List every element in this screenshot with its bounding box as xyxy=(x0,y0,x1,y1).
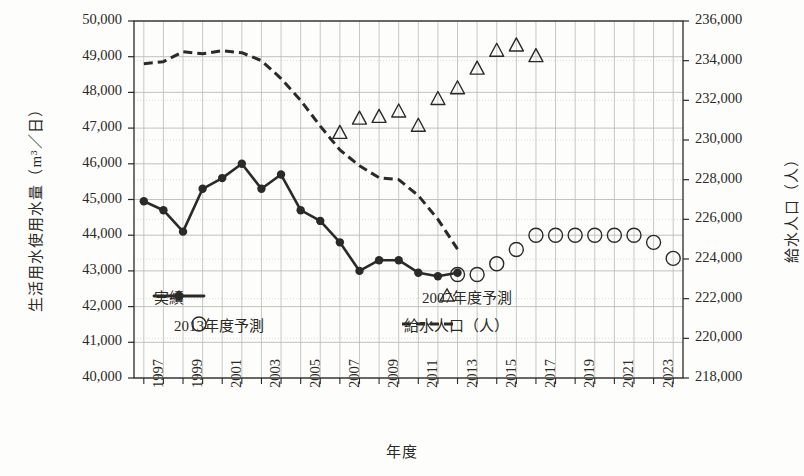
legend-marker-open-circle xyxy=(170,314,228,334)
data-point xyxy=(159,206,167,214)
plot-area xyxy=(0,0,804,476)
legend-item: 2013年度予測 xyxy=(170,314,264,335)
data-point xyxy=(336,238,344,246)
data-point xyxy=(453,268,461,276)
data-point xyxy=(257,185,265,193)
data-point xyxy=(179,227,187,235)
data-point xyxy=(414,268,422,276)
legend-item: 実績 xyxy=(150,286,184,307)
data-point xyxy=(140,197,148,205)
legend-marker-open-triangle xyxy=(418,286,476,306)
data-point xyxy=(394,256,402,264)
data-point xyxy=(218,174,226,182)
data-point xyxy=(434,272,442,280)
data-point xyxy=(277,170,285,178)
chart-figure: 生活用水使用水量（m³／日） 給水人口（人） 年度 40,00041,00042… xyxy=(0,0,804,476)
data-point xyxy=(238,160,246,168)
legend-marker-dashed-line xyxy=(400,314,458,334)
chart-legend: 実績2007年度予測2013年度予測給水人口（人） xyxy=(150,286,670,342)
data-point xyxy=(355,267,363,275)
data-point xyxy=(316,217,324,225)
legend-item: 2007年度予測 xyxy=(418,286,512,307)
legend-marker-filled-circle-line xyxy=(150,286,208,306)
data-point xyxy=(198,185,206,193)
legend-item: 給水人口（人） xyxy=(400,314,509,335)
data-point xyxy=(375,256,383,264)
data-point xyxy=(296,206,304,214)
